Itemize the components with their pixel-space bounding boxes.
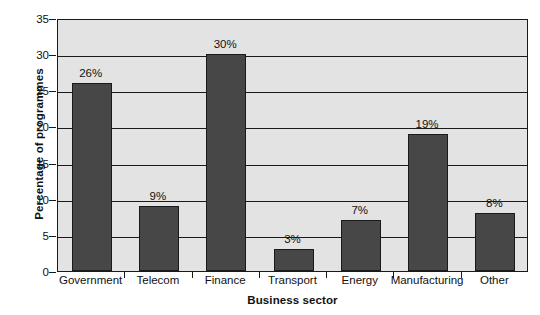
x-axis-category-label: Finance: [205, 274, 246, 286]
x-axis-category-label: Government: [59, 274, 122, 286]
y-axis-tick-mark: [49, 272, 56, 273]
x-axis-category-label: Energy: [342, 274, 378, 286]
bar-value-label: 3%: [284, 233, 301, 245]
y-axis-tick-label: 10: [21, 194, 49, 206]
y-axis-tick-mark: [49, 127, 56, 128]
y-axis-tick-label: 35: [21, 13, 49, 25]
x-axis-tick-mark: [192, 272, 193, 278]
y-axis-tick-label: 15: [21, 158, 49, 170]
bar-value-label: 19%: [416, 118, 439, 130]
bar: [274, 249, 314, 271]
gridline: [58, 128, 527, 129]
gridline: [58, 201, 527, 202]
y-axis-tick-mark: [49, 91, 56, 92]
bar: [475, 213, 515, 271]
y-axis-tick-mark: [49, 200, 56, 201]
bar: [341, 220, 381, 271]
y-axis-tick-label: 30: [21, 49, 49, 61]
x-axis-title: Business sector: [57, 294, 528, 306]
y-axis-tick-label: 0: [21, 266, 49, 278]
y-axis-tick-mark: [49, 164, 56, 165]
bar-value-label: 7%: [351, 204, 368, 216]
bar-value-label: 8%: [486, 197, 503, 209]
x-axis-tick-mark: [259, 272, 260, 278]
bar: [408, 134, 448, 271]
y-axis-tick-mark: [49, 236, 56, 237]
x-axis-category-label: Transport: [268, 274, 317, 286]
x-axis-tick-mark: [326, 272, 327, 278]
bar-value-label: 9%: [150, 190, 167, 202]
y-axis-tick-label: 5: [21, 230, 49, 242]
y-axis-ticks: 05101520253035: [19, 19, 49, 272]
bar-value-label: 30%: [214, 38, 237, 50]
x-axis-tick-mark: [124, 272, 125, 278]
x-axis-category-label: Manufacturing: [391, 274, 464, 286]
bar-chart: Percentage of programmes 05101520253035 …: [0, 0, 540, 315]
y-axis-tick-label: 20: [21, 121, 49, 133]
bar: [72, 83, 112, 271]
bar: [206, 54, 246, 271]
x-axis-category-label: Telecom: [137, 274, 180, 286]
x-axis-category-label: Other: [480, 274, 509, 286]
bar-value-label: 26%: [79, 67, 102, 79]
y-axis-tick-mark: [49, 55, 56, 56]
gridline: [58, 165, 527, 166]
gridline: [58, 92, 527, 93]
bar: [139, 206, 179, 271]
y-axis-tick-label: 25: [21, 85, 49, 97]
y-axis-tick-mark: [49, 19, 56, 20]
gridline: [58, 56, 527, 57]
